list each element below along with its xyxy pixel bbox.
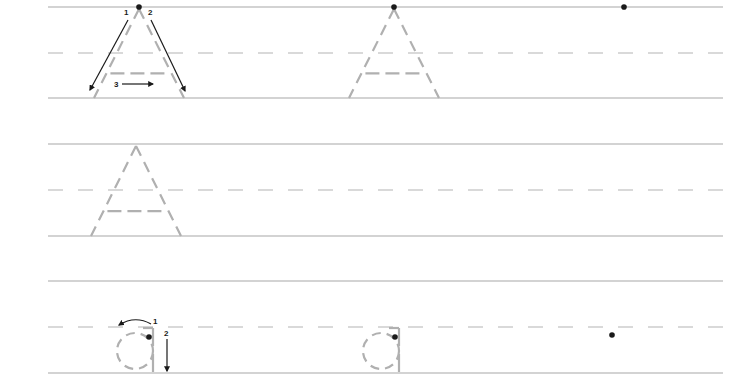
stroke-1-arrow <box>119 320 151 325</box>
handwriting-worksheet: 12312 <box>0 0 756 380</box>
start-dot[interactable] <box>609 332 615 338</box>
start-dot <box>136 4 142 10</box>
stroke-label-2: 2 <box>164 329 169 338</box>
stroke-label-1: 1 <box>153 317 158 326</box>
stroke-label-2: 2 <box>148 8 153 17</box>
practice-row <box>48 144 723 236</box>
stroke-label-1: 1 <box>124 8 129 17</box>
practice-row: 123 <box>48 4 723 98</box>
stroke-label-3: 3 <box>114 80 119 89</box>
practice-row: 12 <box>48 281 723 373</box>
start-dot <box>391 4 397 10</box>
start-dot[interactable] <box>621 4 627 10</box>
start-dot <box>146 334 152 340</box>
trace-letter-a[interactable] <box>363 328 399 373</box>
trace-letter-A[interactable]: 123 <box>90 4 185 98</box>
trace-letter-a[interactable]: 12 <box>117 317 169 373</box>
start-dot <box>392 334 398 340</box>
trace-letter-A[interactable] <box>91 146 181 236</box>
stroke-1-arrow <box>90 20 128 90</box>
stroke-2-arrow <box>151 20 185 91</box>
trace-letter-A[interactable] <box>349 4 439 98</box>
